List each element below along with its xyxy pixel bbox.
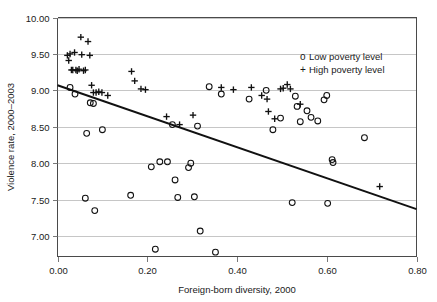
data-point-high-poverty xyxy=(258,92,264,98)
y-tick-label: 7.00 xyxy=(31,231,50,242)
data-point-high-poverty xyxy=(297,101,303,107)
y-tick-label: 10.00 xyxy=(26,13,50,24)
data-point-low-poverty xyxy=(195,123,201,129)
data-point-low-poverty xyxy=(197,228,203,234)
data-point-high-poverty xyxy=(142,86,148,92)
y-axis-ticks: 7.007.508.008.509.009.5010.00 xyxy=(26,13,58,242)
data-point-low-poverty xyxy=(362,135,368,141)
data-point-high-poverty xyxy=(272,116,278,122)
y-tick-label: 8.00 xyxy=(31,158,50,169)
data-point-low-poverty xyxy=(92,208,98,214)
x-tick-label: 0.20 xyxy=(138,265,157,276)
legend-label: High poverty level xyxy=(309,64,385,75)
x-axis-ticks: 0.000.200.400.600.80 xyxy=(49,257,427,276)
y-tick-label: 9.50 xyxy=(31,49,50,60)
data-point-high-poverty xyxy=(87,52,93,58)
data-point-high-poverty xyxy=(88,82,94,88)
x-tick-label: 0.80 xyxy=(408,265,427,276)
series-low-poverty-points xyxy=(67,84,367,255)
data-point-high-poverty xyxy=(218,84,224,90)
data-point-high-poverty xyxy=(79,51,85,57)
data-point-low-poverty xyxy=(315,118,321,124)
y-tick-label: 7.50 xyxy=(31,195,50,206)
data-point-high-poverty xyxy=(264,96,270,102)
data-point-low-poverty xyxy=(218,91,224,97)
data-point-high-poverty xyxy=(190,112,196,118)
x-axis-title: Foreign-born diversity, 2000 xyxy=(178,284,296,295)
legend-label: Low poverty level xyxy=(309,51,382,62)
data-point-high-poverty xyxy=(66,57,72,63)
data-point-high-poverty xyxy=(128,68,134,74)
y-axis-title: Violence rate, 2000–2003 xyxy=(5,83,16,191)
data-point-high-poverty xyxy=(248,84,254,90)
legend-marker-plus-icon: + xyxy=(300,64,306,75)
regression-line xyxy=(58,85,417,209)
data-point-high-poverty xyxy=(78,34,84,40)
data-point-low-poverty xyxy=(278,115,284,121)
data-point-low-poverty xyxy=(308,114,314,120)
data-point-high-poverty xyxy=(284,81,290,87)
x-tick-label: 0.00 xyxy=(49,265,68,276)
data-point-low-poverty xyxy=(324,93,330,99)
data-point-high-poverty xyxy=(287,86,293,92)
x-tick-label: 0.60 xyxy=(318,265,337,276)
data-point-high-poverty xyxy=(85,38,91,44)
data-point-low-poverty xyxy=(292,93,298,99)
data-point-high-poverty xyxy=(163,113,169,119)
data-point-low-poverty xyxy=(172,177,178,183)
data-point-high-poverty xyxy=(73,67,79,73)
data-point-low-poverty xyxy=(213,249,219,255)
data-point-low-poverty xyxy=(297,119,303,125)
data-point-high-poverty xyxy=(377,183,383,189)
trend-line xyxy=(58,85,417,209)
x-tick-label: 0.40 xyxy=(228,265,247,276)
data-point-low-poverty xyxy=(128,192,134,198)
data-point-high-poverty xyxy=(230,86,236,92)
data-point-high-poverty xyxy=(105,92,111,98)
data-point-low-poverty xyxy=(84,130,90,136)
data-point-low-poverty xyxy=(206,84,212,90)
data-point-high-poverty xyxy=(138,86,144,92)
chart-legend: oLow poverty level+High poverty level xyxy=(300,51,385,75)
data-point-low-poverty xyxy=(175,195,181,201)
y-tick-label: 8.50 xyxy=(31,122,50,133)
data-point-high-poverty xyxy=(265,108,271,114)
scatter-plot-figure: 0.000.200.400.600.80 7.007.508.008.509.0… xyxy=(0,0,437,302)
chart-canvas: 0.000.200.400.600.80 7.007.508.008.509.0… xyxy=(0,0,437,302)
data-point-low-poverty xyxy=(148,164,154,170)
data-point-low-poverty xyxy=(304,108,310,114)
data-point-low-poverty xyxy=(152,246,158,252)
data-point-low-poverty xyxy=(325,200,331,206)
y-tick-label: 9.00 xyxy=(31,85,50,96)
data-point-low-poverty xyxy=(246,96,252,102)
data-point-low-poverty xyxy=(191,194,197,200)
legend-marker-circle-icon: o xyxy=(300,51,306,62)
data-point-high-poverty xyxy=(131,78,137,84)
